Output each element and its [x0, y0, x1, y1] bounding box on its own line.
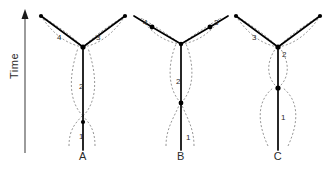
- panel-a-label-3: 3: [96, 33, 101, 42]
- panel-letter-c: C: [263, 150, 293, 162]
- tree-diagram-svg: 1 2 3 4: [0, 0, 323, 170]
- panel-a-label-1: 1: [79, 132, 84, 141]
- panel-c-label-1: 1: [281, 113, 286, 122]
- up-arrow-icon: [22, 9, 29, 19]
- figure-canvas: Time: [0, 0, 323, 170]
- time-axis: [22, 9, 29, 153]
- panel-b-label-1: 1: [186, 133, 191, 142]
- panel-b-label-3: 3: [214, 18, 219, 27]
- panel-letter-a: A: [68, 150, 98, 162]
- panel-b: 1 2 3 4: [134, 16, 228, 150]
- panel-c: 1 2 3: [234, 14, 322, 150]
- panel-b-gene-tree: [134, 16, 228, 150]
- panel-b-label-4: 4: [143, 18, 148, 27]
- panel-b-label-2: 2: [176, 77, 181, 86]
- panel-c-label-3: 3: [252, 33, 257, 42]
- panel-a: 1 2 3 4: [39, 14, 127, 150]
- panel-a-label-2: 2: [79, 82, 84, 91]
- time-axis-label: Time: [8, 44, 20, 88]
- panel-c-gene-tree: [236, 16, 320, 150]
- panel-letter-b: B: [166, 150, 196, 162]
- panel-a-label-4: 4: [57, 33, 62, 42]
- panel-c-label-2: 2: [282, 50, 287, 59]
